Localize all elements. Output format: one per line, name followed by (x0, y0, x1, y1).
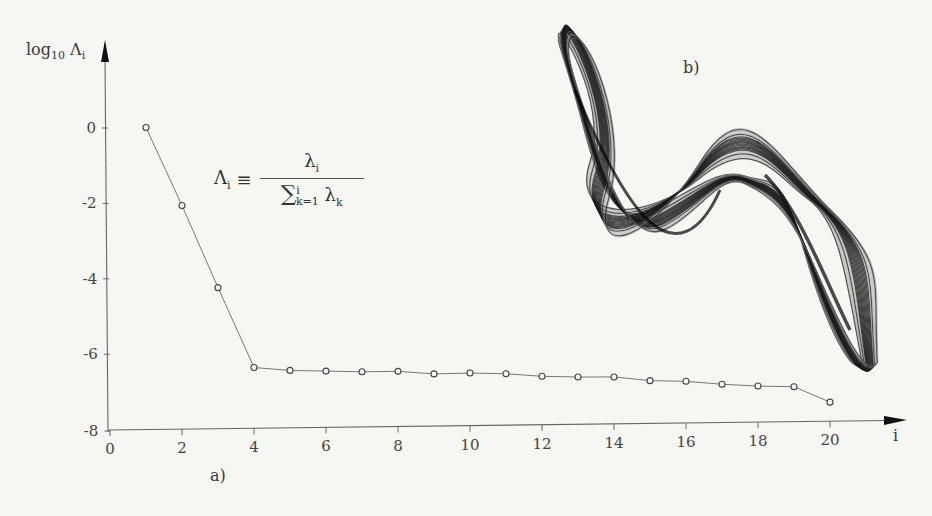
formula-equiv: ≡ (237, 169, 252, 190)
data-point (359, 369, 365, 375)
x-tick-label: 0 (105, 440, 115, 458)
x-tick-label: 6 (321, 437, 331, 455)
y-axis-arrow-icon (101, 40, 109, 62)
formula-lhs: Λi (214, 167, 231, 192)
x-axis-line (108, 421, 890, 431)
data-point (539, 373, 545, 379)
x-tick-label: 4 (249, 438, 259, 456)
formula-fraction: λi ∑ik=1 λk (260, 150, 364, 208)
y-axis-label: log10 Λi (26, 40, 85, 62)
axes: 0-2-4-6-802468101214161820 (82, 40, 907, 458)
data-point (287, 367, 293, 373)
data-point (611, 374, 617, 380)
x-tick-label: 12 (532, 435, 551, 453)
data-point (791, 384, 797, 390)
data-point (395, 368, 401, 374)
data-point (467, 370, 473, 376)
data-point (719, 381, 725, 387)
data-point (215, 285, 221, 291)
x-axis-arrow-icon (884, 416, 907, 425)
data-point (143, 125, 149, 131)
y-tick-label: -6 (83, 345, 98, 363)
x-tick-label: 14 (604, 434, 623, 452)
data-point (179, 203, 185, 209)
y-tick-label: -2 (82, 194, 97, 212)
x-tick-label: 2 (177, 439, 187, 457)
data-point (251, 364, 257, 370)
formula-annotation: Λi ≡ λi ∑ik=1 λk (214, 150, 364, 208)
data-point (647, 378, 653, 384)
y-axis-line (105, 58, 108, 432)
data-point (503, 371, 509, 377)
x-axis-label: i (893, 426, 898, 445)
data-point (827, 399, 833, 405)
y-tick-label: 0 (86, 119, 96, 137)
y-tick-label: -8 (84, 422, 99, 440)
data-point (431, 371, 437, 377)
x-tick-label: 8 (393, 437, 403, 455)
formula-denominator: ∑ik=1 λk (281, 179, 343, 209)
data-point (683, 378, 689, 384)
x-tick-label: 18 (748, 432, 767, 450)
y-tick-label: -4 (83, 270, 98, 288)
data-point (323, 368, 329, 374)
x-tick-label: 10 (460, 436, 479, 454)
panel-a-label: a) (210, 466, 226, 485)
figure: 0-2-4-6-802468101214161820 (0, 0, 932, 516)
x-tick-label: 16 (676, 433, 695, 451)
x-tick-label: 20 (820, 431, 839, 449)
data-point (575, 374, 581, 380)
data-point (755, 383, 761, 389)
formula-numerator: λi (260, 150, 364, 179)
panel-b-label: b) (683, 58, 699, 77)
attractor-plot (558, 25, 878, 371)
